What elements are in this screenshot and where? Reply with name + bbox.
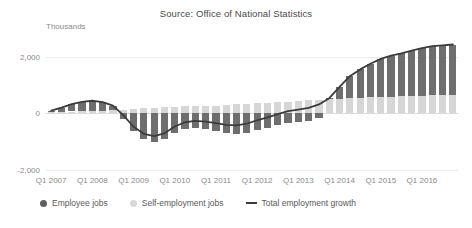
x-axis-tick-label: Q1 2014 [324, 176, 355, 185]
gridline [46, 170, 458, 171]
x-axis-tick-label: Q1 2008 [77, 176, 108, 185]
line-icon [246, 202, 257, 204]
x-axis-tick-label: Q1 2016 [407, 176, 438, 185]
x-axis-tick-label: Q1 2010 [159, 176, 190, 185]
chart-source-title: Source: Office of National Statistics [0, 8, 472, 19]
x-axis-tick-label: Q1 2013 [283, 176, 314, 185]
y-axis-tick-label: 2,000 [20, 52, 40, 61]
dot-icon [40, 200, 47, 207]
x-axis-tick-label: Q1 2012 [242, 176, 273, 185]
legend-label: Total employment growth [262, 198, 357, 208]
legend-item-total-employment-growth: Total employment growth [246, 198, 357, 208]
legend-item-employee-jobs: Employee jobs [40, 198, 108, 208]
x-axis-tick-label: Q1 2015 [365, 176, 396, 185]
x-axis-tick-label: Q1 2011 [201, 176, 231, 185]
y-axis-tick-label: -2,000 [17, 166, 40, 175]
legend-label: Employee jobs [52, 198, 108, 208]
plot-area: 2,0000-2,000Q1 2007Q1 2008Q1 2009Q1 2010… [46, 40, 458, 170]
x-axis-tick-label: Q1 2009 [118, 176, 149, 185]
y-axis-unit-label: Thousands [46, 22, 86, 31]
total-employment-growth-line [46, 40, 458, 170]
legend-label: Self-employment jobs [142, 198, 224, 208]
legend-item-self-employment-jobs: Self-employment jobs [130, 198, 224, 208]
y-axis-tick-label: 0 [36, 109, 40, 118]
x-axis-tick-label: Q1 2007 [36, 176, 67, 185]
chart-legend: Employee jobs Self-employment jobs Total… [40, 198, 356, 208]
dot-icon [130, 200, 137, 207]
employment-growth-chart: Source: Office of National Statistics Th… [0, 0, 472, 228]
